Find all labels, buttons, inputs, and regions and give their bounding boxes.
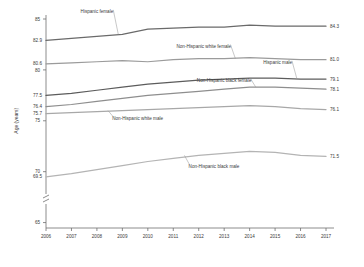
y-tick-label: 75 (35, 118, 41, 123)
x-tick-label: 2006 (41, 234, 52, 239)
series-start-value: 76.4 (33, 104, 42, 109)
x-tick-label: 2012 (194, 234, 205, 239)
x-tick-label: 2009 (117, 234, 128, 239)
series-label-leader (292, 61, 297, 79)
series-start-value: 75.7 (33, 111, 42, 116)
series-label: Hispanic male (263, 60, 292, 65)
series-end-value: 71.5 (330, 154, 339, 159)
series-label: Non-Hispanic black male (189, 164, 240, 169)
series-label: Hispanic female (81, 9, 114, 14)
x-tick-label: 2017 (321, 234, 332, 239)
x-tick-label: 2016 (295, 234, 306, 239)
x-tick-label: 2014 (245, 234, 256, 239)
y-tick-label: 80 (35, 68, 41, 73)
x-tick-label: 2008 (92, 234, 103, 239)
x-tick-label: 2015 (270, 234, 281, 239)
series-label: Non-Hispanic black female (197, 78, 252, 83)
series-line (46, 25, 326, 40)
y-axis-break-icon (43, 195, 49, 202)
x-tick-label: 2007 (66, 234, 77, 239)
series-line (46, 151, 326, 176)
series-label-leader (251, 79, 256, 87)
y-tick-label: 65 (35, 220, 41, 225)
series-label-leader (230, 45, 235, 59)
series-label: Non-Hispanic white female (176, 44, 231, 49)
series-start-value: 82.9 (33, 38, 42, 43)
series-label-leader (113, 10, 118, 34)
series-label: Non-Hispanic white male (112, 116, 163, 121)
series-start-value: 77.5 (33, 93, 42, 98)
series-start-value: 69.5 (33, 174, 42, 179)
y-axis-title: Age (years) (13, 108, 19, 134)
series-end-value: 78.1 (330, 87, 339, 92)
x-tick-label: 2010 (143, 234, 154, 239)
series-end-value: 81.0 (330, 57, 339, 62)
x-tick-label: 2011 (168, 234, 178, 239)
y-tick-label: 85 (35, 17, 41, 22)
series-line (46, 87, 326, 106)
series-line (46, 106, 326, 114)
x-tick-label: 2013 (219, 234, 230, 239)
chart-canvas: 8580757065Age (years)2006200720082009201… (0, 0, 364, 267)
life-expectancy-line-chart: 8580757065Age (years)2006200720082009201… (0, 0, 364, 267)
series-start-value: 80.6 (33, 61, 42, 66)
series-end-value: 79.1 (330, 77, 339, 82)
series-end-value: 76.1 (330, 107, 339, 112)
series-end-value: 84.3 (330, 24, 339, 29)
